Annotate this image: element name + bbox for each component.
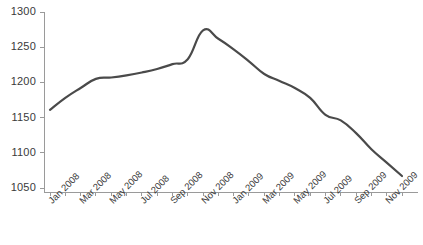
y-axis-tick-label: 1150 [2,111,36,123]
chart-canvas [0,0,423,245]
chart-axes [40,12,418,196]
line-chart: 105011001150120012501300 Jan 2008Mar 200… [0,0,423,245]
data-line [50,29,402,176]
y-axis-tick-label: 1200 [2,75,36,87]
y-axis-tick-label: 1050 [2,181,36,193]
y-axis-tick-label: 1300 [2,5,36,17]
y-axis-tick-label: 1250 [2,40,36,52]
chart-series [50,29,402,176]
y-axis-tick-label: 1100 [2,146,36,158]
